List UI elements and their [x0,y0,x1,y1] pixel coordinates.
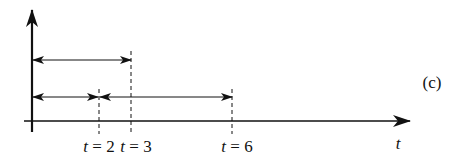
marker-label-t6: t = 6 [221,137,252,156]
diagram-svg: t = 2 t = 3 t = 6 t (c) [0,0,461,164]
interval-diagram: t = 2 t = 3 t = 6 t (c) [0,0,461,164]
x-axis-label: t [396,134,402,153]
marker-label-t3: t = 3 [120,137,151,156]
marker-label-t2: t = 2 [83,137,114,156]
panel-label: (c) [423,73,442,92]
